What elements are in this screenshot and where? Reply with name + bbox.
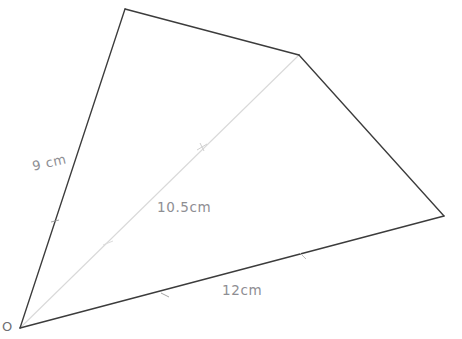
diagonal-length-label: 10.5cm xyxy=(157,201,211,215)
top-side-line xyxy=(125,9,299,55)
tick-bottom-side-mark xyxy=(161,293,169,297)
side-length-label-bottom: 12cm xyxy=(222,284,262,298)
vertex-label-origin: O xyxy=(2,320,12,333)
geometry-figure: 9 cm 10.5cm 12cm O xyxy=(0,0,462,339)
right-side-line xyxy=(299,55,444,216)
bottom-side-line xyxy=(20,216,444,328)
